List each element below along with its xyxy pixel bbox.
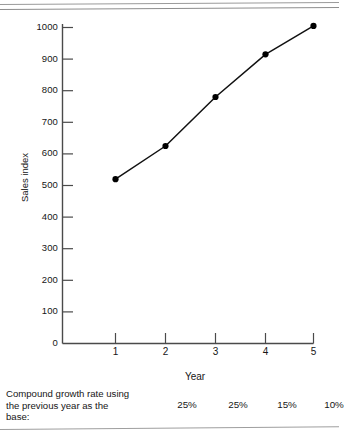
y-tick-label-0: 0 — [18, 338, 58, 348]
data-point-year-2 — [162, 143, 168, 149]
growth-rate-values: 25% 25% 15% 10% — [0, 399, 339, 413]
x-tick-marks — [116, 333, 314, 344]
series-markers — [112, 23, 316, 182]
x-axis-title: Year — [150, 371, 240, 383]
y-tick-label-200: 200 — [18, 275, 58, 285]
y-axis-title: Sales index — [19, 138, 30, 218]
y-tick-label-300: 300 — [18, 243, 58, 253]
x-tick-label-1: 1 — [104, 346, 128, 357]
sales-index-line-chart: 1000 900 800 700 600 500 400 300 200 100… — [0, 0, 339, 360]
growth-rate-year-4: 15% — [267, 399, 307, 411]
y-tick-label-900: 900 — [18, 54, 58, 64]
y-tick-marks — [63, 28, 74, 312]
growth-rate-year-2: 25% — [167, 399, 207, 411]
growth-rate-label-line-1: Compound growth rate using — [6, 388, 166, 400]
data-point-year-5 — [310, 23, 316, 29]
growth-rate-year-5: 10% — [314, 399, 348, 411]
y-tick-label-700: 700 — [18, 117, 58, 127]
x-tick-label-3: 3 — [204, 346, 228, 357]
y-tick-label-100: 100 — [18, 306, 58, 316]
growth-rate-year-3: 25% — [218, 399, 258, 411]
series-line — [116, 26, 314, 179]
y-tick-label-800: 800 — [18, 85, 58, 95]
x-tick-label-4: 4 — [254, 346, 278, 357]
page-rule-bottom — [0, 426, 339, 430]
y-tick-label-1000: 1000 — [18, 22, 58, 32]
data-point-year-4 — [262, 51, 268, 57]
x-tick-label-2: 2 — [154, 346, 178, 357]
x-tick-label-5: 5 — [302, 346, 326, 357]
data-point-year-1 — [112, 176, 118, 182]
data-point-year-3 — [212, 94, 218, 100]
